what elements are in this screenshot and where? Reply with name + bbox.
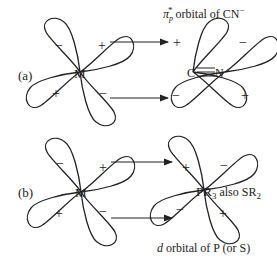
lobe-sign: −: [220, 158, 228, 173]
ligand-c-orbital: [193, 18, 247, 107]
d-orbital-caption: d orbital of P (or S): [157, 241, 250, 255]
lobe-sign: −: [99, 86, 107, 101]
lobe-sign: +: [241, 88, 249, 103]
lobe-sign: +: [182, 160, 190, 175]
lobe-sign: −: [176, 202, 184, 217]
panel-a-label: (a): [18, 68, 32, 83]
orbital-diagram: (a) M − + + − C N + − − +: [0, 0, 277, 261]
lobe-sign: +: [99, 160, 107, 175]
pr3-label: PR3 also SR2: [196, 184, 261, 201]
pi-star-title: πp* orbital of CN−: [163, 5, 245, 23]
lobe-sign: +: [173, 35, 181, 50]
nitrogen-label: N: [215, 66, 224, 80]
carbon-label: C: [187, 66, 195, 80]
lobe-sign: −: [55, 38, 63, 53]
lobe-sign: +: [219, 206, 227, 221]
panel-b-label: (b): [18, 185, 33, 200]
metal-label-a: M: [74, 66, 86, 81]
lobe-sign: +: [52, 86, 60, 101]
lobe-sign: −: [239, 35, 247, 50]
lobe-sign: +: [98, 38, 106, 53]
panel-a: (a) M − + + − C N + − − +: [18, 5, 277, 126]
lobe-sign: −: [56, 156, 64, 171]
lobe-sign: +: [55, 206, 63, 221]
panel-b: (b) M − + + − + − − + PR3 also SR2 d orb…: [18, 136, 261, 255]
lobe-sign: −: [172, 88, 180, 103]
metal-label-b: M: [75, 185, 87, 200]
lobe-sign: −: [99, 204, 107, 219]
